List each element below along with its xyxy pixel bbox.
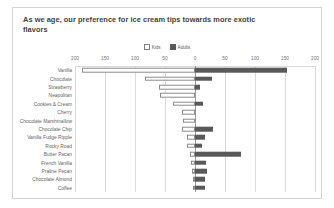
bar-adults[interactable]	[195, 152, 241, 157]
chart-row: Chocolate Marshmallow	[75, 116, 315, 124]
legend-item-adults[interactable]: Adults	[170, 44, 191, 50]
legend-swatch-kids-icon	[144, 44, 150, 50]
plot-area: VanillaChocolateStrawberryNeapolitanCook…	[75, 66, 315, 192]
category-label: Neapolitan	[49, 93, 72, 98]
x-axis-tick-label: 0	[194, 56, 197, 61]
bar-kids[interactable]	[173, 101, 195, 106]
bar-kids[interactable]	[187, 135, 195, 140]
chart-row: French Vanilla	[75, 158, 315, 166]
category-label: Chocolate Marshmallow	[20, 118, 72, 123]
bar-kids[interactable]	[182, 127, 195, 132]
x-axis-tick-labels: 20015010050050100150200	[13, 56, 321, 65]
chart-row: Cherry	[75, 108, 315, 116]
chart-row: Butter Pecan	[75, 150, 315, 158]
chart-row: Praline Pecan	[75, 167, 315, 175]
legend-label-adults: Adults	[178, 45, 191, 50]
legend-swatch-adults-icon	[170, 44, 176, 50]
bar-kids[interactable]	[182, 110, 195, 115]
legend-item-kids[interactable]: Kids	[144, 44, 161, 50]
category-label: Rocky Road	[45, 143, 72, 148]
bar-adults[interactable]	[195, 101, 203, 106]
chart-title: As we age, our preference for ice cream …	[23, 15, 273, 35]
chart-row: Coffee	[75, 184, 315, 192]
bar-adults[interactable]	[195, 160, 206, 165]
category-label: Chocolate Almond	[32, 177, 72, 182]
bar-adults[interactable]	[195, 169, 207, 174]
chart-row: Vanilla Fudge Ripple	[75, 133, 315, 141]
x-axis-tick-label: 100	[251, 56, 259, 61]
bar-kids[interactable]	[145, 76, 195, 81]
category-label: Praline Pecan	[42, 168, 72, 173]
x-axis-tick-label: 50	[162, 56, 167, 61]
category-label: Chocolate	[50, 76, 72, 81]
category-label: Cherry	[57, 110, 72, 115]
x-axis-tick-label: 50	[222, 56, 227, 61]
bar-adults[interactable]	[195, 135, 205, 140]
bar-adults[interactable]	[195, 143, 202, 148]
chart-row: Chocolate Chip	[75, 125, 315, 133]
bar-kids[interactable]	[160, 93, 195, 98]
chart-row: Vanilla	[75, 66, 315, 74]
bar-adults[interactable]	[195, 76, 212, 81]
category-label: Butter Pecan	[44, 152, 72, 157]
chart-rows: VanillaChocolateStrawberryNeapolitanCook…	[75, 66, 315, 192]
bar-kids[interactable]	[82, 68, 195, 73]
bar-adults[interactable]	[195, 68, 287, 73]
chart-row: Cookies & Cream	[75, 100, 315, 108]
chart-card: As we age, our preference for ice cream …	[12, 7, 322, 199]
legend-label-kids: Kids	[152, 45, 161, 50]
x-axis-tick-label: 200	[71, 56, 79, 61]
category-label: Vanilla Fudge Ripple	[27, 135, 72, 140]
bar-kids[interactable]	[187, 143, 195, 148]
bar-adults[interactable]	[195, 127, 213, 132]
category-label: French Vanilla	[41, 160, 72, 165]
x-axis-tick-label: 150	[281, 56, 289, 61]
bar-adults[interactable]	[195, 177, 205, 182]
category-label: Coffee	[58, 185, 72, 190]
bar-kids[interactable]	[183, 118, 195, 123]
x-axis-tick-label: 200	[311, 56, 319, 61]
category-label: Strawberry	[48, 84, 72, 89]
category-label: Cookies & Cream	[34, 101, 72, 106]
x-axis-tick-label: 150	[101, 56, 109, 61]
chart-legend: Kids Adults	[13, 44, 321, 50]
x-axis-tick-label: 100	[131, 56, 139, 61]
chart-row: Strawberry	[75, 83, 315, 91]
chart-row: Chocolate	[75, 74, 315, 82]
category-label: Vanilla	[58, 68, 72, 73]
bar-adults[interactable]	[195, 85, 200, 90]
category-label: Chocolate Chip	[39, 126, 72, 131]
chart-row: Chocolate Almond	[75, 175, 315, 183]
chart-row: Rocky Road	[75, 142, 315, 150]
bar-adults[interactable]	[195, 185, 205, 190]
bar-kids[interactable]	[159, 85, 195, 90]
gridline	[315, 66, 316, 192]
chart-row: Neapolitan	[75, 91, 315, 99]
